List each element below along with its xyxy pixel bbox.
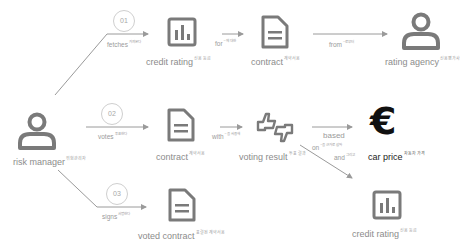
document-icon — [261, 15, 289, 49]
edge-label-fetches: fetches가져온다 — [107, 39, 141, 48]
car-price-label: car price자동차 가격 — [368, 150, 425, 162]
edge-label-for: for~에 대한 — [215, 38, 236, 47]
credit-rating-bottom-label: credit rating신용 등급 — [352, 227, 417, 239]
contract-mid-label: contract계약서용 — [156, 150, 205, 162]
step-badge-01: 01 — [113, 10, 135, 32]
voting-result-label: voting result투표 결과 — [239, 150, 306, 162]
edge-label-and: and그리고 — [334, 152, 355, 161]
person-icon — [400, 10, 442, 52]
thumbs-up-down-icon — [255, 110, 295, 146]
euro-icon: € — [370, 101, 396, 141]
step-badge-02: 02 — [101, 103, 123, 125]
credit-rating-top-label: credit rating신용 등급 — [146, 55, 211, 67]
person-icon — [16, 110, 58, 152]
risk-manager-label: risk manager위험관리자 — [13, 155, 86, 167]
rating-agency-label: rating agency신용평가사 — [385, 55, 460, 67]
bar-chart-icon — [372, 190, 402, 220]
edge-label-on: on~을 근거로 삼아 — [312, 142, 342, 151]
edge-label-based: based — [323, 131, 345, 140]
edge-label-from: from~로부터 — [329, 39, 354, 48]
contract-top-label: contract계약서용 — [251, 55, 300, 67]
voted-contract-label: voted contract표결된 계약서용 — [138, 229, 225, 241]
document-icon — [167, 108, 195, 142]
step-badge-03: 03 — [106, 183, 128, 205]
edge-label-signs: signs서명한다 — [102, 211, 130, 220]
edge-label-votes: votes투표한다 — [98, 131, 127, 140]
bar-chart-icon — [167, 17, 197, 47]
document-icon — [168, 188, 196, 222]
edge-label-with: with~을 사용해 — [212, 131, 240, 140]
